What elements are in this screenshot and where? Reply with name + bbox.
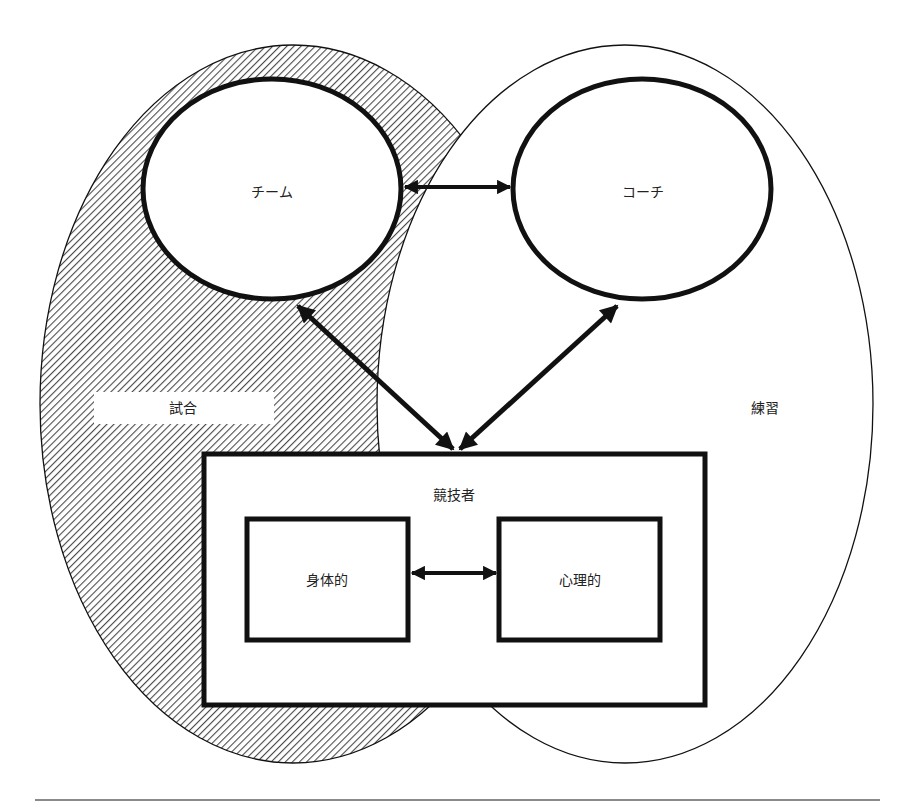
psychological-label: 心理的 <box>559 573 601 587</box>
physical-label: 身体的 <box>306 573 348 587</box>
coach-label: コーチ <box>622 185 664 199</box>
match-label: 試合 <box>169 401 197 415</box>
athlete-label: 競技者 <box>433 488 475 502</box>
team-label: チーム <box>251 185 293 199</box>
practice-label: 練習 <box>751 401 779 415</box>
bottom-rule <box>35 799 880 801</box>
